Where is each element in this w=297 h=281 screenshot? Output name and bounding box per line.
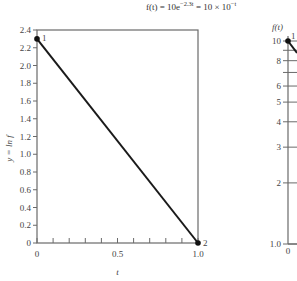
y-tick-label: 2.2 (20, 43, 31, 53)
point-label: 1 (42, 33, 47, 43)
y-tick-label: 0.6 (20, 185, 32, 195)
y-axis-label: f(t) (272, 22, 283, 32)
y-axis-label: y = ln f (4, 134, 14, 163)
point-label: 1 (291, 31, 296, 41)
y-tick-label: 0.8 (20, 167, 32, 177)
chart-canvas: f(t) = 10e−2.3t = 10 × 10−t 00.20.40.60.… (0, 0, 297, 281)
y-tick-label: 8 (277, 56, 282, 66)
x-tick-label: 0 (35, 249, 40, 259)
ln-f-line (37, 39, 198, 243)
y-tick-label: 1.4 (20, 114, 32, 124)
y-tick-label: 0 (27, 238, 32, 248)
x-tick-label: 0.5 (112, 249, 124, 259)
y-tick-label: 1.2 (20, 132, 31, 142)
y-tick-label: 6 (277, 81, 282, 91)
data-point (34, 36, 40, 42)
y-tick-label: 5 (277, 97, 282, 107)
left-chart-ln-f: 00.20.40.60.81.01.21.41.61.82.02.22.400.… (4, 25, 208, 277)
y-tick-label: 2 (277, 178, 282, 188)
y-tick-label: 4 (277, 117, 282, 127)
x-tick-label: 0 (286, 246, 291, 256)
data-point (285, 38, 291, 44)
y-tick-label: 0.2 (20, 220, 31, 230)
y-tick-label: 1.8 (20, 78, 32, 88)
y-tick-label: 2.0 (20, 61, 32, 71)
y-tick-label: 0.4 (20, 203, 32, 213)
point-label: 2 (203, 238, 208, 248)
x-axis-label: t (116, 267, 119, 277)
y-tick-label: 1.0 (270, 239, 282, 249)
y-tick-label: 3 (277, 142, 282, 152)
y-tick-label: 1.6 (20, 96, 32, 106)
y-tick-label: 10 (272, 36, 282, 46)
data-point (195, 240, 201, 246)
y-tick-label: 2.4 (20, 25, 32, 35)
y-tick-label: 1.0 (20, 149, 32, 159)
x-tick-label: 1.0 (192, 249, 204, 259)
right-chart-log-f: 1.0234568100f(t)1 (270, 22, 297, 256)
formula-title: f(t) = 10e−2.3t = 10 × 10−t (146, 0, 236, 12)
